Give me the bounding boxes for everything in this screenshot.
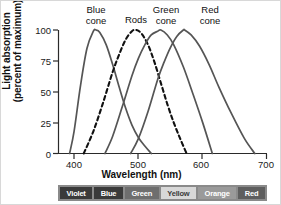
axes: [53, 30, 267, 159]
visible-spectrum-bar: VioletBlueGreenYellowOrangeRed: [58, 185, 267, 201]
light-absorption-chart: Light absorption (percent of maximum) 10…: [0, 0, 281, 205]
curve-rods: [84, 30, 187, 154]
spectrum-band-orange: Orange: [198, 187, 236, 199]
spectrum-band-green: Green: [125, 187, 159, 199]
spectrum-band-red: Red: [238, 187, 265, 199]
y-axis-ticks: [53, 30, 58, 154]
x-axis-ticks: [74, 154, 267, 159]
absorption-curves: [70, 29, 255, 153]
x-axis-title: Wavelength (nm): [1, 169, 281, 180]
spectrum-band-violet: Violet: [60, 187, 92, 199]
spectrum-band-yellow: Yellow: [161, 187, 196, 199]
spectrum-band-blue: Blue: [94, 187, 123, 199]
